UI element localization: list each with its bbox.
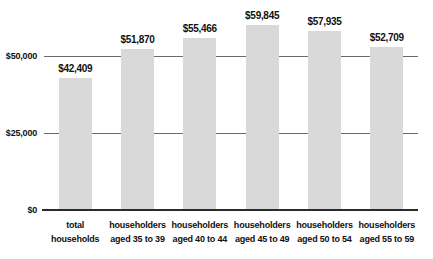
bar-value-label: $51,870 (120, 34, 154, 45)
y-axis-tick-50000: $50,000 (0, 51, 37, 61)
bar-aged-40-44 (183, 38, 216, 209)
category-label-aged-40-44: householders aged 40 to 44 (169, 218, 231, 246)
bar-column-total-households: $42,409 (44, 0, 106, 209)
bar-value-label: $52,709 (370, 32, 404, 43)
category-labels-row: total households householders aged 35 to… (44, 218, 418, 246)
bar-column-aged-45-49: $59,845 (231, 0, 293, 209)
bar-aged-45-49 (246, 25, 279, 209)
category-label-aged-45-49: householders aged 45 to 49 (231, 218, 293, 246)
bar-value-label: $59,845 (245, 10, 279, 21)
bars-row: $42,409 $51,870 $55,466 $59,845 $57,935 … (44, 0, 418, 209)
bar-aged-50-54 (308, 31, 341, 209)
bar-value-label: $55,466 (183, 23, 217, 34)
bar-aged-55-59 (370, 47, 403, 209)
category-label-aged-50-54: householders aged 50 to 54 (293, 218, 355, 246)
bar-column-aged-40-44: $55,466 (169, 0, 231, 209)
bar-chart: $0 $25,000 $50,000 $42,409 $51,870 $55,4… (0, 0, 433, 259)
bar-column-aged-35-39: $51,870 (106, 0, 168, 209)
category-label-aged-55-59: householders aged 55 to 59 (356, 218, 418, 246)
category-label-total-households: total households (44, 218, 106, 246)
plot-area: $0 $25,000 $50,000 $42,409 $51,870 $55,4… (44, 0, 418, 211)
x-axis-line (42, 209, 418, 211)
bar-value-label: $42,409 (58, 63, 92, 74)
category-label-aged-35-39: householders aged 35 to 39 (106, 218, 168, 246)
bar-value-label: $57,935 (307, 16, 341, 27)
bar-total-households (59, 78, 92, 209)
bar-column-aged-55-59: $52,709 (356, 0, 418, 209)
y-axis-tick-25000: $25,000 (0, 128, 37, 138)
bar-aged-35-39 (121, 49, 154, 209)
y-axis-tick-0: $0 (0, 205, 37, 215)
bar-column-aged-50-54: $57,935 (293, 0, 355, 209)
